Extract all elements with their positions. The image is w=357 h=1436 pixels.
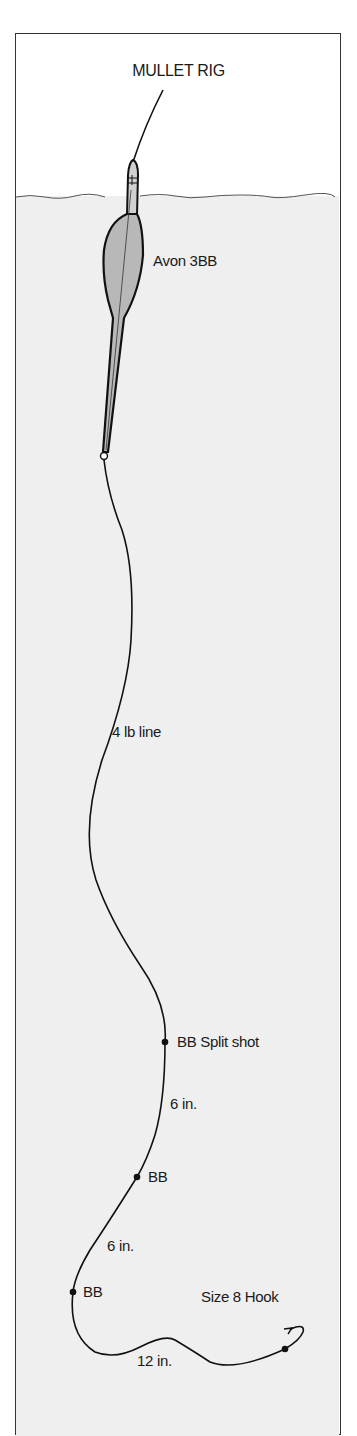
shot-1-label: BB Split shot (177, 1033, 259, 1050)
hook-icon (284, 1328, 292, 1334)
main-line (72, 460, 303, 1365)
float-eye-icon (101, 453, 108, 460)
line-above-water (133, 90, 163, 162)
split-shot-3 (70, 1289, 77, 1296)
hook-label: Size 8 Hook (201, 1288, 279, 1305)
gap-2-label: 6 in. (107, 1237, 134, 1254)
hook-length-label: 12 in. (137, 1352, 172, 1369)
diagram-title: MULLET RIG (0, 62, 357, 80)
shot-3-label: BB (83, 1283, 102, 1300)
hook-eye (282, 1346, 289, 1353)
shot-2-label: BB (148, 1168, 167, 1185)
split-shot-1 (162, 1039, 169, 1046)
float-label: Avon 3BB (153, 252, 217, 269)
water-surface-line (16, 193, 335, 198)
line-label: 4 lb line (112, 723, 161, 740)
float-antenna (127, 160, 138, 215)
split-shot-2 (134, 1174, 141, 1181)
gap-1-label: 6 in. (170, 1095, 197, 1112)
